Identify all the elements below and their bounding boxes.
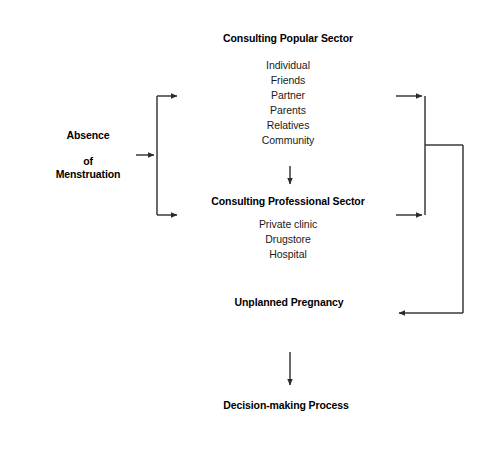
flowchart-diagram: Absence of Menstruation Consulting Popul…: [0, 0, 483, 454]
node-professional-title: Consulting Professional Sector: [211, 195, 364, 208]
node-popular-item-list: Individual Friends Partner Parents Relat…: [262, 58, 315, 147]
node-decision-making-process: Decision-making Process: [182, 388, 390, 437]
node-absence-title-line2: of: [83, 155, 93, 168]
list-item: Friends: [262, 73, 315, 88]
list-item: Individual: [262, 58, 315, 73]
list-item: Private clinic: [259, 217, 317, 232]
node-professional-item-list: Private clinic Drugstore Hospital: [259, 217, 317, 262]
node-consulting-professional-sector: Consulting Professional Sector Private c…: [180, 187, 396, 273]
list-item: Hospital: [259, 247, 317, 262]
node-absence-title-line3: Menstruation: [56, 168, 121, 181]
node-pregnancy-title: Unplanned Pregnancy: [235, 296, 344, 309]
node-popular-title: Consulting Popular Sector: [223, 32, 353, 45]
node-decision-title: Decision-making Process: [223, 399, 349, 412]
list-item: Relatives: [262, 118, 315, 133]
list-item: Community: [262, 133, 315, 148]
node-consulting-popular-sector: Consulting Popular Sector Individual Fri…: [180, 21, 396, 166]
list-item: Drugstore: [259, 232, 317, 247]
node-unplanned-pregnancy: Unplanned Pregnancy: [182, 288, 396, 352]
node-absence-of-menstruation: Absence of Menstruation: [40, 105, 136, 205]
node-absence-title-line1: Absence: [66, 129, 109, 142]
list-item: Partner: [262, 88, 315, 103]
list-item: Parents: [262, 103, 315, 118]
